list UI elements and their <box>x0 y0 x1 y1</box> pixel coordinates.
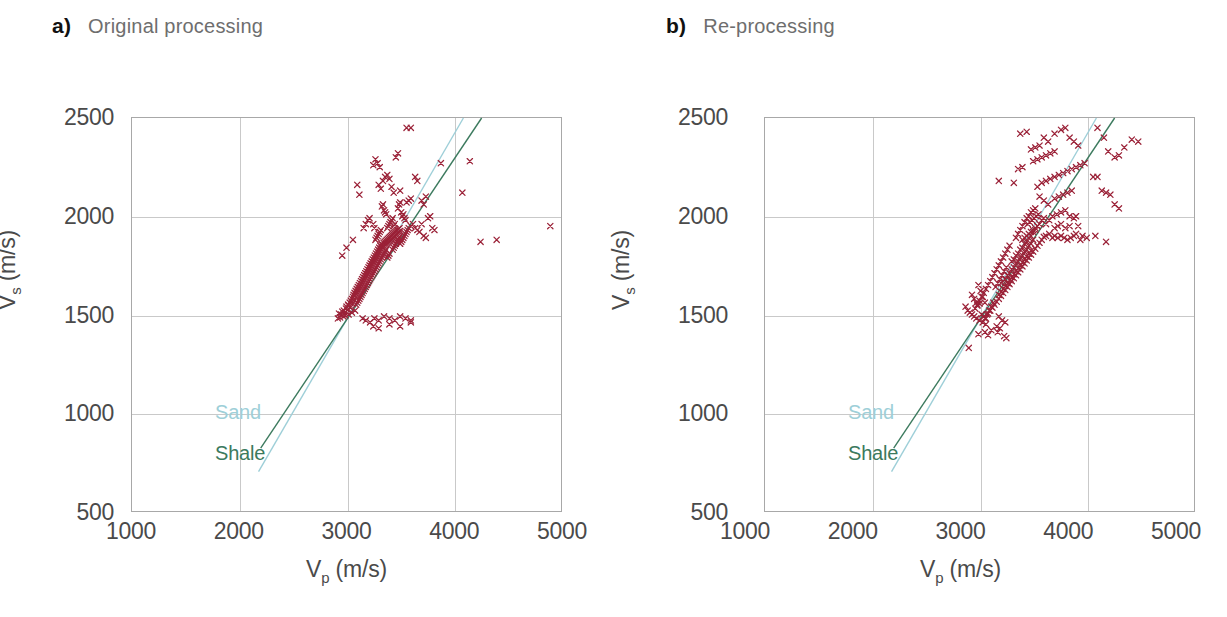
scatter-marker <box>1011 180 1016 185</box>
scatter-marker <box>1136 139 1141 144</box>
scatter-marker <box>408 196 413 201</box>
scatter-marker <box>432 227 437 232</box>
y-tick-label: 2500 <box>64 104 123 131</box>
panel-b-shale-label: Shale <box>848 442 898 465</box>
panel-b: b)Re-processing Vs (m/s) 500100015002000… <box>614 0 1227 617</box>
scatter-marker <box>494 237 499 242</box>
panel-a-sand-label: Sand <box>215 401 261 424</box>
scatter-marker <box>381 314 386 319</box>
scatter-marker <box>467 159 472 164</box>
scatter-marker <box>438 161 443 166</box>
y-tick-label: 1500 <box>64 301 123 328</box>
scatter-marker <box>460 190 465 195</box>
scatter-series <box>963 125 1141 350</box>
x-tick-label: 2000 <box>214 518 264 545</box>
scatter-marker <box>391 190 396 195</box>
scatter-marker <box>371 324 376 329</box>
x-tick-label: 4000 <box>429 518 479 545</box>
x-tick-label: 3000 <box>322 518 372 545</box>
scatter-marker <box>1037 194 1042 199</box>
scatter-marker <box>1103 239 1108 244</box>
figure-root: a)Original processing Vs (m/s) 500100015… <box>0 0 1227 617</box>
scatter-marker <box>427 214 432 219</box>
scatter-marker <box>371 221 376 226</box>
scatter-marker <box>989 328 994 333</box>
scatter-marker <box>397 188 402 193</box>
scatter-marker <box>392 318 397 323</box>
panel-b-letter: b) <box>666 14 686 37</box>
scatter-marker <box>1018 131 1023 136</box>
figure-bottom-caption <box>0 607 1227 617</box>
scatter-marker <box>1093 233 1098 238</box>
y-tick-label: 2500 <box>678 104 737 131</box>
panel-b-plot-area: Sand Shale <box>764 117 1195 512</box>
panel-a-plot-area: Sand Shale <box>131 117 562 512</box>
x-tick-label: 5000 <box>1151 518 1201 545</box>
panel-b-sand-label: Sand <box>848 401 894 424</box>
scatter-marker <box>1129 137 1134 142</box>
scatter-marker <box>982 300 987 305</box>
y-tick-label: 2000 <box>678 202 737 229</box>
scatter-marker <box>397 200 402 205</box>
scatter-marker <box>985 332 990 337</box>
scatter-marker <box>1052 131 1057 136</box>
panel-a-y-ticks: 5001000150020002500 <box>0 117 123 512</box>
scatter-marker <box>397 314 402 319</box>
scatter-series <box>335 125 553 331</box>
panel-b-x-axis-label: Vp (m/s) <box>745 556 1176 586</box>
y-tick-label: 2000 <box>64 202 123 229</box>
scatter-marker <box>996 178 1001 183</box>
scatter-marker <box>389 184 394 189</box>
scatter-marker <box>1073 231 1078 236</box>
scatter-marker <box>372 225 377 230</box>
scatter-marker <box>1004 335 1009 340</box>
scatter-marker <box>976 282 981 287</box>
scatter-marker <box>401 212 406 217</box>
x-tick-label: 4000 <box>1043 518 1093 545</box>
scatter-marker <box>344 245 349 250</box>
scatter-marker <box>408 125 413 130</box>
x-tick-label: 2000 <box>828 518 878 545</box>
scatter-marker <box>380 202 385 207</box>
scatter-marker <box>548 223 553 228</box>
scatter-marker <box>966 345 971 350</box>
scatter-marker <box>367 216 372 221</box>
panel-b-y-ticks: 5001000150020002500 <box>614 117 737 512</box>
scatter-marker <box>419 221 424 226</box>
scatter-marker <box>1041 216 1046 221</box>
x-tick-label: 1000 <box>106 518 156 545</box>
panel-a-x-axis-label: Vp (m/s) <box>131 556 562 586</box>
scatter-marker <box>1106 149 1111 154</box>
x-tick-label: 3000 <box>936 518 986 545</box>
scatter-marker <box>423 194 428 199</box>
scatter-marker <box>340 253 345 258</box>
panel-a-title: a)Original processing <box>52 14 263 38</box>
panel-a-x-ticks: 10002000300040005000 <box>131 518 562 552</box>
panel-a-data-layer <box>132 118 561 511</box>
scatter-marker <box>355 182 360 187</box>
scatter-marker <box>1116 206 1121 211</box>
scatter-marker <box>1075 223 1080 228</box>
panel-b-data-layer <box>765 118 1194 511</box>
trend-line-shale <box>894 118 1115 448</box>
scatter-marker <box>403 316 408 321</box>
scatter-marker <box>1024 129 1029 134</box>
scatter-marker <box>387 316 392 321</box>
y-tick-label: 1000 <box>678 400 737 427</box>
scatter-marker <box>1073 214 1078 219</box>
scatter-marker <box>387 322 392 327</box>
scatter-marker <box>1095 174 1100 179</box>
scatter-marker <box>976 331 981 336</box>
panel-a: a)Original processing Vs (m/s) 500100015… <box>0 0 613 617</box>
x-tick-label: 1000 <box>720 518 770 545</box>
y-tick-label: 1500 <box>678 301 737 328</box>
panel-a-letter: a) <box>52 14 71 37</box>
scatter-marker <box>357 192 362 197</box>
scatter-marker <box>1095 125 1100 130</box>
scatter-marker <box>1122 145 1127 150</box>
scatter-marker <box>1033 206 1038 211</box>
scatter-marker <box>350 237 355 242</box>
panel-b-caption: Re-processing <box>703 15 835 37</box>
scatter-marker <box>397 324 402 329</box>
scatter-marker <box>376 326 381 331</box>
